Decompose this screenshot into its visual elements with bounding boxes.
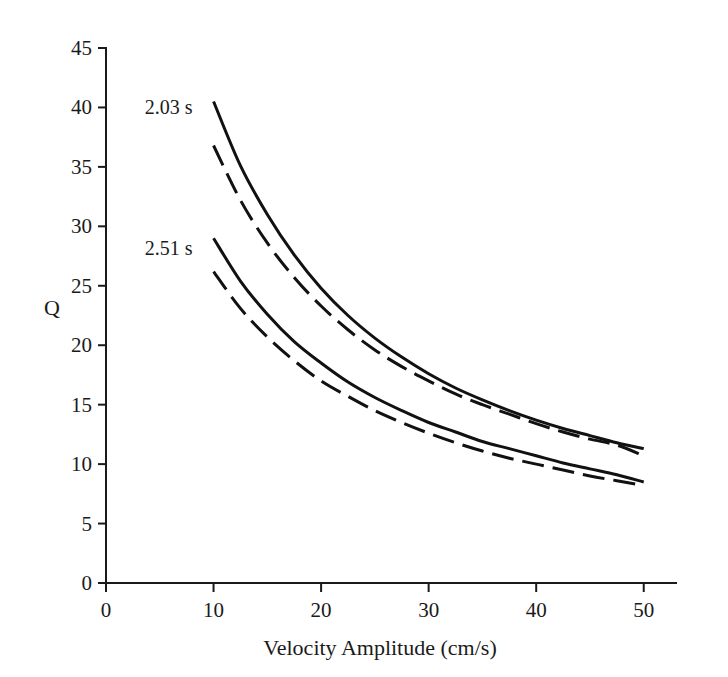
x-axis-ticks: 01020304050 [101,583,654,622]
series-annotation-1: 2.51 s [145,237,193,259]
x-tick-label: 50 [633,598,654,622]
y-tick-label: 30 [71,214,92,238]
y-tick-label: 25 [71,274,92,298]
y-tick-label: 40 [71,95,92,119]
y-tick-label: 5 [82,512,93,536]
y-tick-label: 45 [71,36,92,60]
x-tick-label: 10 [203,598,224,622]
series-annotation-0: 2.03 s [145,96,193,118]
x-tick-label: 0 [101,598,112,622]
curve-3 [214,272,644,486]
chart-plot: 051015202530354045 01020304050 2.03 s2.5… [0,0,728,677]
figure-container: 051015202530354045 01020304050 2.03 s2.5… [0,0,728,677]
series-annotations: 2.03 s2.51 s [145,96,193,258]
y-axis-ticks: 051015202530354045 [71,36,106,595]
x-tick-label: 20 [311,598,332,622]
axes-group [106,48,676,583]
x-axis-title: Velocity Amplitude (cm/s) [263,635,496,660]
x-tick-label: 40 [526,598,547,622]
y-tick-label: 20 [71,333,92,357]
curve-1 [214,145,644,455]
data-curves [214,102,644,486]
y-axis-title: Q [44,295,60,320]
y-tick-label: 10 [71,452,92,476]
y-tick-label: 0 [82,571,93,595]
y-tick-label: 15 [71,393,92,417]
x-tick-label: 30 [418,598,439,622]
y-tick-label: 35 [71,155,92,179]
curve-0 [214,102,644,449]
curve-2 [214,238,644,482]
